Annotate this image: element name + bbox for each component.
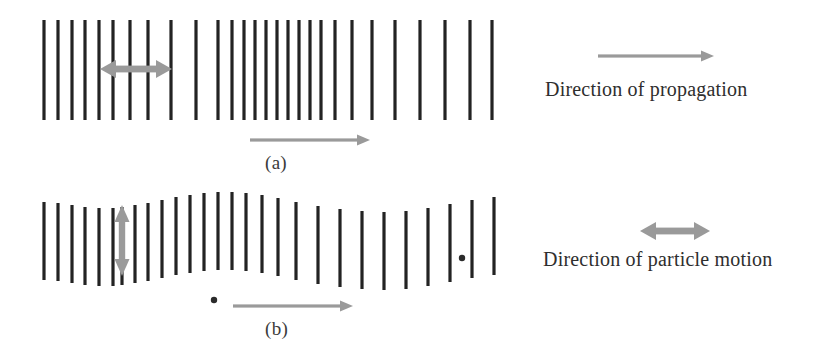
panel-b-particle-motion-arrow <box>115 205 130 276</box>
panel-a-longitudinal: (a) <box>0 0 540 180</box>
panel-a-propagation-arrow <box>250 135 370 146</box>
particle-marker-right <box>459 255 465 261</box>
legend-propagation-arrow <box>598 51 714 62</box>
panel-b-propagation-arrow <box>233 301 353 312</box>
legend-direction-of-particle-motion: Direction of particle motion <box>543 248 772 271</box>
panel-b-transverse: (b) <box>0 180 540 353</box>
particle-marker-left <box>211 297 217 303</box>
wave-diagram-figure: (a) (b) Direction of propagation Directi… <box>0 0 826 353</box>
panel-a-label: (a) <box>265 152 287 174</box>
panel-b-label: (b) <box>265 318 288 340</box>
panel-a-particle-motion-arrow <box>100 60 172 78</box>
legend-direction-of-propagation: Direction of propagation <box>545 78 748 101</box>
legend-particle-motion-arrow <box>640 222 710 240</box>
